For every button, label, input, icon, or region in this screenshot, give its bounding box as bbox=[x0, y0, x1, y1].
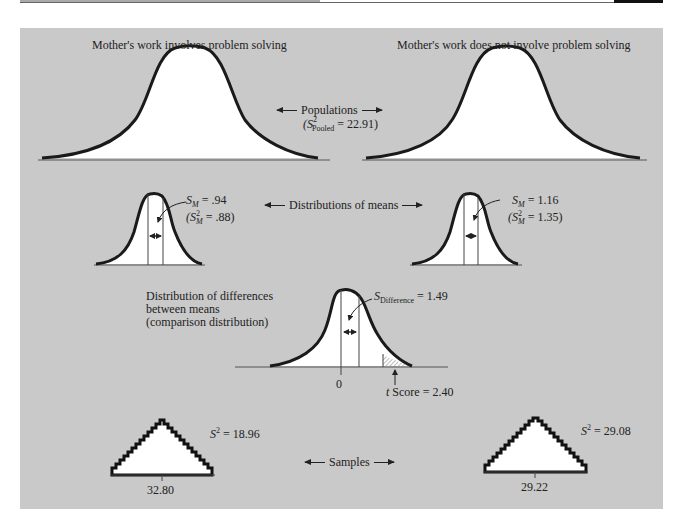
population-curve-right bbox=[362, 46, 647, 160]
means-right-variance-label: (S2M = 1.35) bbox=[508, 210, 562, 229]
means-curve-right bbox=[410, 193, 522, 265]
arrow-left-icon bbox=[265, 205, 285, 206]
distributions-of-means-text: Distributions of means bbox=[289, 198, 398, 212]
distributions-of-means-label: Distributions of means bbox=[265, 198, 422, 212]
populations-label-text: Populations bbox=[301, 103, 358, 117]
sample-left-variance-label: S2 = 18.96 bbox=[210, 424, 260, 441]
populations-label: Populations bbox=[277, 103, 382, 117]
arrow-right-icon bbox=[362, 110, 382, 111]
zero-tick-label: 0 bbox=[336, 377, 342, 391]
figure-graphics bbox=[0, 0, 681, 524]
sample-histogram-right bbox=[483, 418, 588, 478]
comparison-distribution-description: Distribution of differences between mean… bbox=[146, 290, 273, 329]
samples-label-text: Samples bbox=[329, 455, 370, 469]
population-left-title: Mother's work involves problem solving bbox=[92, 38, 287, 52]
pooled-variance-label: (S2Pooled = 22.91) bbox=[303, 117, 378, 136]
difference-sd-label: SDifference = 1.49 bbox=[374, 289, 448, 308]
sample-right-mean-label: 29.22 bbox=[521, 480, 548, 494]
sample-right-variance-label: S2 = 29.08 bbox=[581, 421, 631, 438]
arrow-right-icon bbox=[402, 205, 422, 206]
means-left-variance-label: (S2M = .88) bbox=[186, 210, 234, 229]
arrow-right-icon bbox=[374, 462, 394, 463]
arrow-left-icon bbox=[305, 462, 325, 463]
arrow-left-icon bbox=[277, 110, 297, 111]
samples-label: Samples bbox=[305, 455, 394, 469]
sample-histogram-left bbox=[110, 420, 215, 481]
t-score-label: t Score = 2.40 bbox=[386, 385, 453, 399]
population-right-title: Mother's work does not involve problem s… bbox=[397, 38, 630, 52]
sample-left-mean-label: 32.80 bbox=[147, 483, 174, 497]
